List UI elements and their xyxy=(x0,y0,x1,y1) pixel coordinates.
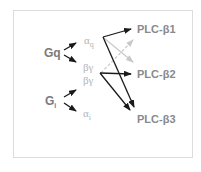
gi-betagamma-label: βγ xyxy=(83,75,93,86)
plcb1-label: PLC-β1 xyxy=(137,24,176,35)
gi-label: Gi xyxy=(45,95,56,109)
gq-betagamma-label: βγ xyxy=(83,62,93,73)
gi-to-alphai-arrow xyxy=(64,103,76,111)
gi-to-betagamma-arrow xyxy=(64,90,76,97)
alphai-label: αi xyxy=(83,108,91,122)
gq-label: Gq xyxy=(44,47,61,59)
alphaq-to-plcb1-arrow xyxy=(103,29,131,37)
gq-to-betagamma-arrow xyxy=(64,55,76,62)
plcb2-label: PLC-β2 xyxy=(137,69,176,80)
betagamma-to-plcb2-arrow xyxy=(100,73,131,74)
alphaq-label: αq xyxy=(84,35,94,49)
plcb3-label: PLC-β3 xyxy=(137,114,176,125)
gq-to-alphaq-arrow xyxy=(64,43,76,50)
betagamma-to-plcb3-arrow xyxy=(100,73,130,110)
